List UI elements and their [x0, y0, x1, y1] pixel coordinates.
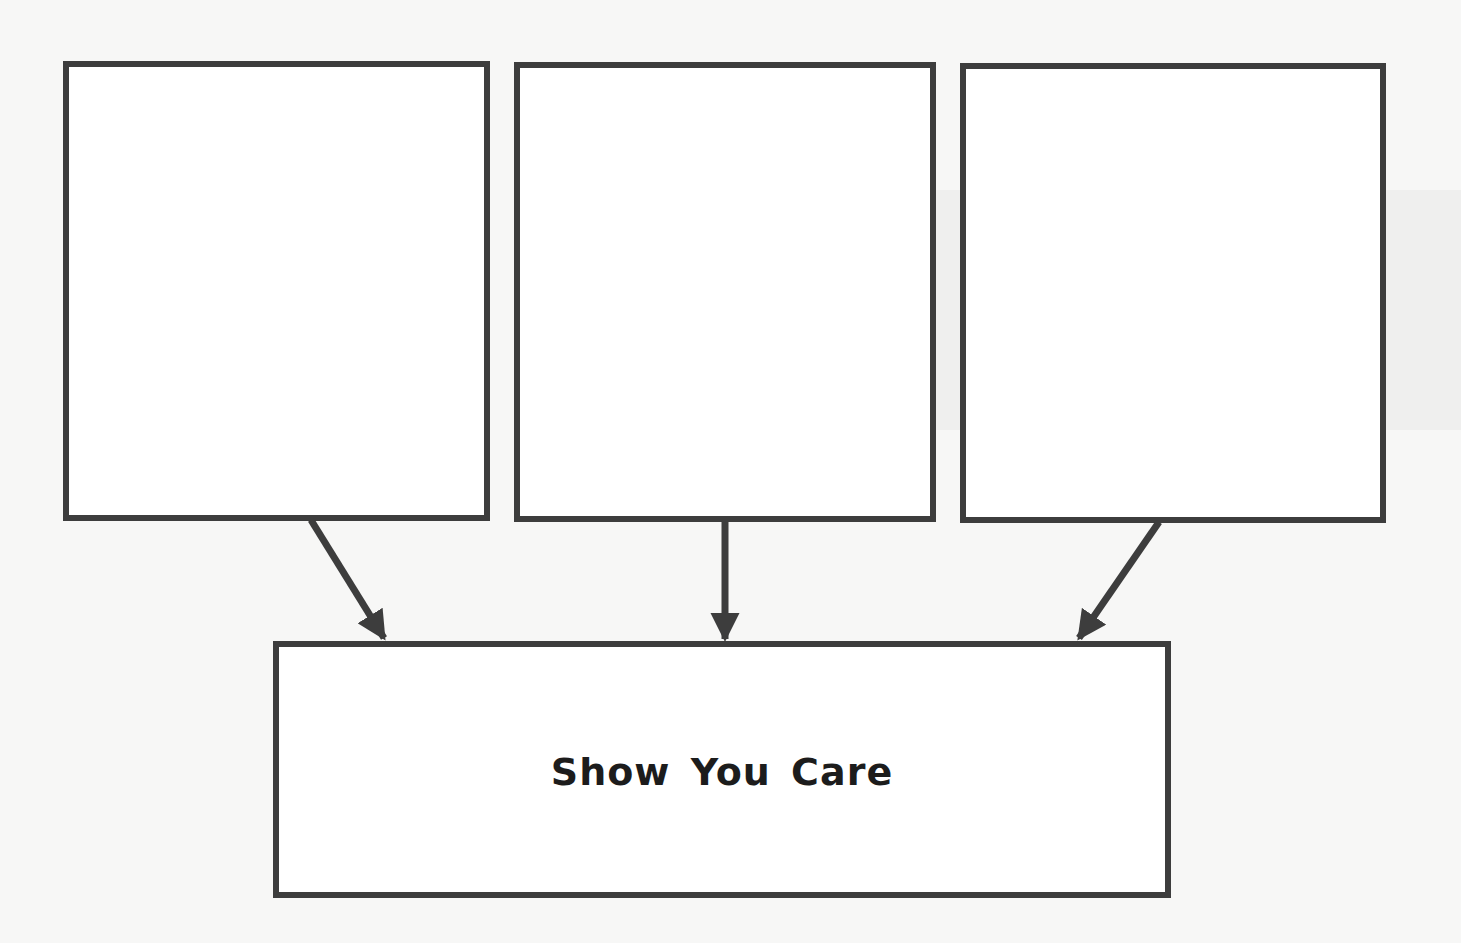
arrow-1-icon [311, 520, 384, 638]
arrow-3-icon [1079, 522, 1159, 638]
target-box-label: Show You Care [551, 750, 893, 794]
target-box[interactable]: Show You Care [273, 641, 1171, 898]
